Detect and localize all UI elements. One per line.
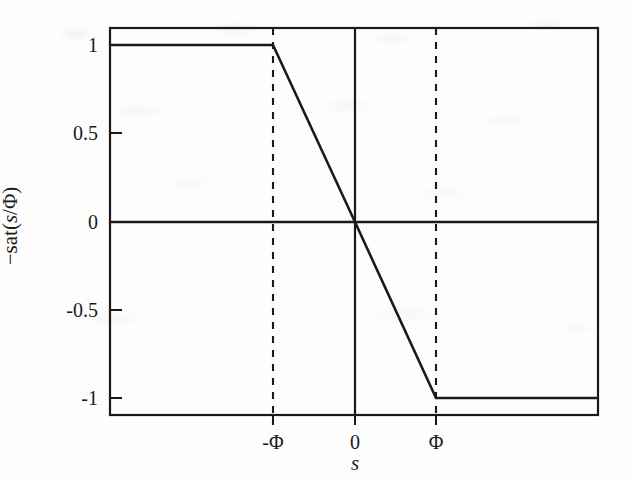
x-tick-label-minus-phi: -Φ <box>262 432 283 452</box>
y-tick-label-0point5: 0.5 <box>42 123 98 143</box>
y-tick-label-minus0point5: -0.5 <box>42 300 98 320</box>
x-tick-label-zero: 0 <box>350 432 360 452</box>
y-tick-label-1: 1 <box>42 35 98 55</box>
figure-canvas: 1 0.5 0 -0.5 -1 -Φ 0 Φ −sat(s/Φ) s <box>0 0 633 483</box>
y-axis-title-close-paren: ) <box>0 187 22 194</box>
y-axis-title-slash: / <box>0 209 22 215</box>
y-axis-title-func: sat <box>0 230 22 253</box>
x-tick-label-phi: Φ <box>429 432 444 452</box>
y-axis-title-denominator: Φ <box>0 194 22 209</box>
x-axis-title: s <box>351 451 359 476</box>
y-axis-title-minus: − <box>0 253 22 265</box>
plot-area <box>0 0 633 483</box>
x-tick-marks <box>273 415 436 425</box>
y-axis-title-open-paren: ( <box>0 223 22 230</box>
y-axis-title-numerator: s <box>0 215 22 223</box>
y-tick-label-minus1: -1 <box>42 388 98 408</box>
y-tick-label-0: 0 <box>42 212 98 232</box>
y-axis-title: −sat(s/Φ) <box>0 187 23 266</box>
